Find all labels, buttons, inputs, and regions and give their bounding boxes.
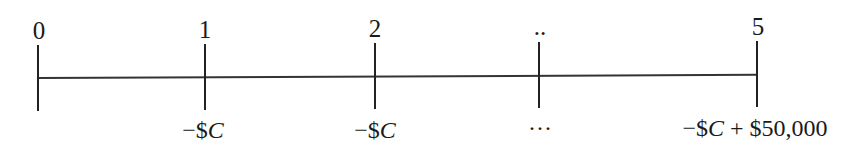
cashflow-prefix: ···	[528, 115, 552, 141]
period-label-5: 5	[752, 14, 765, 39]
period-label-1: 1	[199, 17, 212, 42]
tick-ellipsis	[538, 42, 540, 108]
cashflow-1: −$C	[182, 118, 224, 142]
cashflow-5: −$C + $50,000	[682, 116, 827, 140]
tick-5	[756, 41, 758, 107]
cashflow-prefix: −$	[182, 117, 208, 143]
period-label-2: 2	[369, 16, 382, 41]
period-label-ellipsis: ..	[534, 14, 547, 39]
cashflow-var: C	[708, 115, 724, 141]
timeline-axis	[38, 74, 758, 79]
cashflow-var: C	[208, 117, 224, 143]
cashflow-suffix: + $50,000	[724, 115, 828, 141]
cashflow-2: −$C	[354, 118, 396, 142]
cashflow-prefix: −$	[354, 117, 380, 143]
cashflow-prefix: −$	[682, 115, 708, 141]
cashflow-ellipsis: ···	[528, 116, 552, 140]
period-label-0: 0	[33, 18, 46, 43]
tick-1	[204, 44, 206, 110]
cashflow-var: C	[380, 117, 396, 143]
tick-2	[374, 43, 376, 109]
tick-0	[37, 45, 39, 111]
